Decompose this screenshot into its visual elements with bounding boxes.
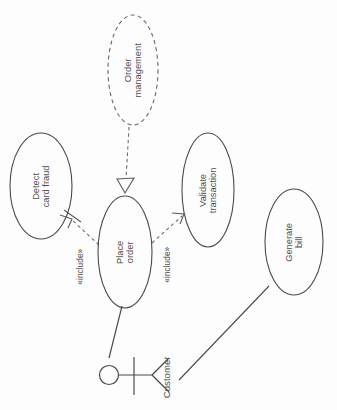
actor-label-customer: Customer	[162, 347, 173, 407]
assoc-customer-generate-bill	[179, 286, 269, 380]
actor-customer-figure[interactable]	[100, 357, 170, 395]
actor-head-icon	[100, 366, 119, 385]
generalization-order-management	[117, 127, 134, 193]
association-line-generate-bill	[179, 286, 269, 380]
open-arrowhead-icon-right	[172, 213, 184, 224]
stereotype-label-include-left: «include»	[76, 237, 85, 297]
use-case-label-validate-transaction: Validate transaction	[198, 160, 219, 220]
association-line-place-order	[109, 306, 122, 358]
generalization-line	[126, 127, 129, 180]
use-case-label-generate-bill: Generate bill	[284, 212, 305, 272]
hollow-triangle-arrowhead-icon	[117, 178, 134, 193]
assoc-customer-place-order	[109, 306, 122, 358]
use-case-diagram-canvas: Order management Detect card fraud Place…	[0, 0, 337, 410]
use-case-label-place-order: Place order	[115, 222, 136, 282]
use-case-label-detect-card-fraud: Detect card fraud	[31, 156, 52, 216]
stereotype-label-include-right: «include»	[163, 235, 172, 295]
use-case-label-order-management: Order management	[123, 40, 144, 100]
